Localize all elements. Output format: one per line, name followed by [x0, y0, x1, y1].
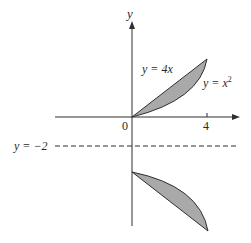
axis-of-rotation-label: y = −2 [13, 139, 48, 153]
parabola-label: y = x2 [202, 75, 232, 90]
parabola-label-rest: = x [208, 76, 228, 90]
shaded-region-lower [132, 172, 208, 231]
y-axis-arrow-icon [129, 21, 135, 29]
y-axis-label: y [125, 6, 133, 21]
parabola-exponent: 2 [228, 75, 232, 84]
x-tick-label-4: 4 [203, 119, 209, 133]
x-axis-arrow-icon [232, 114, 240, 120]
origin-label: 0 [122, 119, 128, 133]
line-label: y = 4x [141, 62, 173, 76]
line-label-rest: = 4x [147, 62, 173, 76]
rotation-diagram: y 0 4 y = 4x y = x2 y = −2 [0, 0, 251, 243]
